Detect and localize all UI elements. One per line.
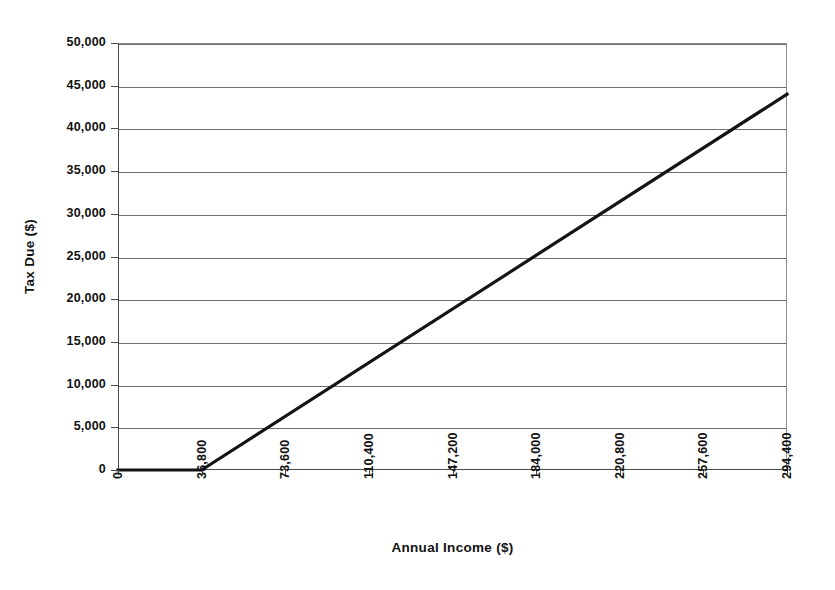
y-tick-mark (111, 128, 118, 129)
y-tick-label: 10,000 (0, 377, 106, 391)
y-tick-mark (111, 171, 118, 172)
y-tick-label: 20,000 (0, 291, 106, 305)
y-tick-label: 45,000 (0, 78, 106, 92)
tax-due-line-chart: 05,00010,00015,00020,00025,00030,00035,0… (0, 0, 835, 590)
y-tick-mark (111, 299, 118, 300)
y-tick-label: 50,000 (0, 35, 106, 49)
data-series-layer (118, 43, 787, 470)
y-tick-label: 15,000 (0, 334, 106, 348)
y-tick-label: 35,000 (0, 163, 106, 177)
y-tick-mark (111, 427, 118, 428)
y-tick-label: 40,000 (0, 120, 106, 134)
y-tick-mark (111, 385, 118, 386)
y-tick-mark (111, 342, 118, 343)
y-tick-label: 25,000 (0, 249, 106, 263)
y-axis-title: Tax Due ($) (22, 43, 46, 470)
y-tick-mark (111, 257, 118, 258)
y-tick-label: 5,000 (0, 419, 106, 433)
y-tick-mark (111, 470, 118, 471)
y-tick-label: 30,000 (0, 206, 106, 220)
y-tick-label: 0 (0, 462, 106, 476)
y-tick-mark (111, 86, 118, 87)
x-axis-title: Annual Income ($) (118, 540, 787, 555)
y-tick-mark (111, 214, 118, 215)
series-line-tax-due (118, 94, 787, 470)
y-tick-mark (111, 43, 118, 44)
